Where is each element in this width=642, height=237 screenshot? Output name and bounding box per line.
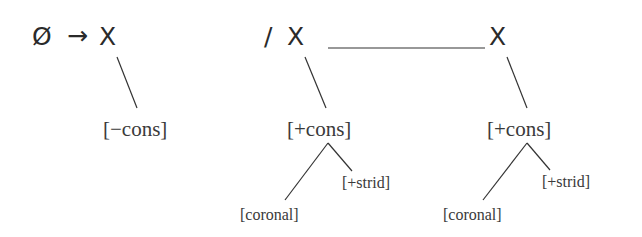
left-context-coronal: [coronal] xyxy=(240,206,299,224)
branch-left-strid xyxy=(328,143,352,171)
right-context-feature: [+cons] xyxy=(487,117,551,141)
right-context-strid: [+strid] xyxy=(542,173,590,191)
association-line-right-context xyxy=(507,57,527,108)
branch-right-coronal xyxy=(483,143,527,200)
environment-slash: / xyxy=(264,22,272,52)
right-context-segment: X xyxy=(489,22,506,52)
association-line-target xyxy=(117,57,137,108)
left-context-feature: [+cons] xyxy=(287,117,351,141)
left-context-segment: X xyxy=(287,22,304,52)
target-segment: X xyxy=(99,22,116,52)
branch-right-strid xyxy=(527,143,550,170)
arrow-icon: → xyxy=(67,21,88,51)
branch-left-coronal xyxy=(285,143,328,200)
null-symbol: Ø xyxy=(32,22,52,52)
association-line-left-context xyxy=(305,57,326,108)
target-feature: [−cons] xyxy=(103,117,167,141)
phonological-rule-diagram: Ø → X [−cons] / X [+cons] [coronal] [+st… xyxy=(0,0,642,237)
left-context-strid: [+strid] xyxy=(342,174,390,192)
right-context-coronal: [coronal] xyxy=(443,206,502,224)
